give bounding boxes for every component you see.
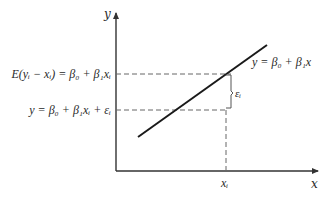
y-axis-label: y [103, 7, 111, 21]
regression-line-label: y = β₀ + β₁x [251, 55, 312, 69]
regression-line [138, 45, 267, 137]
error-label: εᵢ [235, 87, 241, 99]
error-brace [226, 75, 233, 108]
x-axis-label: x [311, 177, 318, 191]
xi-tick-label: xᵢ [220, 176, 228, 190]
observation-label: y = β₀ + β₁xᵢ + εᵢ [28, 103, 111, 117]
regression-diagram: y x y = β₀ + β₁x E(yᵢ − xᵢ) = β₀ + β₁xᵢ … [0, 0, 331, 198]
expected-value-label: E(yᵢ − xᵢ) = β₀ + β₁xᵢ [10, 67, 111, 81]
